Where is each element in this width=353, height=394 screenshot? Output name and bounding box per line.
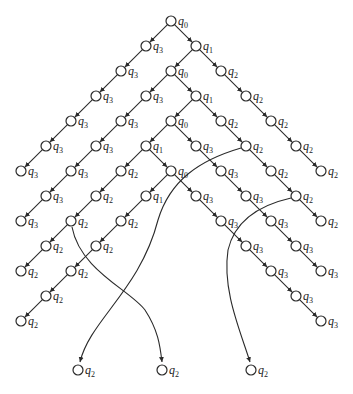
node-circle-icon bbox=[266, 166, 276, 176]
state-node: q3 bbox=[16, 214, 38, 230]
node-circle-icon bbox=[166, 116, 176, 126]
node-circle-icon bbox=[246, 365, 256, 375]
state-node: q2 bbox=[246, 363, 268, 379]
curved-edge-e5-z1 bbox=[80, 148, 241, 362]
state-label: q3 bbox=[103, 89, 113, 105]
node-circle-icon bbox=[66, 216, 76, 226]
state-label: q3 bbox=[78, 164, 88, 180]
state-node: q3 bbox=[316, 314, 338, 330]
node-circle-icon bbox=[191, 91, 201, 101]
state-label: q0 bbox=[178, 164, 188, 180]
node-circle-icon bbox=[191, 191, 201, 201]
state-label: q2 bbox=[78, 214, 88, 230]
state-label: q3 bbox=[128, 64, 138, 80]
state-label: q3 bbox=[278, 214, 288, 230]
state-label: q2 bbox=[169, 363, 179, 379]
node-circle-icon bbox=[166, 16, 176, 26]
node-circle-icon bbox=[216, 216, 226, 226]
state-label: q3 bbox=[153, 39, 163, 55]
node-circle-icon bbox=[91, 191, 101, 201]
node-circle-icon bbox=[266, 266, 276, 276]
state-node: q2 bbox=[41, 289, 63, 305]
state-node: q2 bbox=[66, 264, 88, 280]
state-label: q0 bbox=[178, 64, 188, 80]
state-node: q1 bbox=[141, 189, 163, 205]
node-circle-icon bbox=[91, 91, 101, 101]
state-label: q3 bbox=[53, 189, 63, 205]
state-node: q3 bbox=[41, 139, 63, 155]
state-label: q3 bbox=[128, 114, 138, 130]
node-circle-icon bbox=[241, 191, 251, 201]
state-label: q3 bbox=[53, 139, 63, 155]
node-circle-icon bbox=[266, 216, 276, 226]
state-label: q3 bbox=[253, 189, 263, 205]
state-label: q2 bbox=[85, 363, 95, 379]
state-label: q2 bbox=[78, 264, 88, 280]
state-label: q2 bbox=[53, 289, 63, 305]
node-circle-icon bbox=[16, 166, 26, 176]
state-node: q2 bbox=[116, 214, 138, 230]
state-label: q3 bbox=[153, 89, 163, 105]
state-node: q2 bbox=[91, 189, 113, 205]
state-label: q3 bbox=[28, 214, 38, 230]
node-circle-icon bbox=[41, 191, 51, 201]
state-node: q3 bbox=[141, 89, 163, 105]
node-circle-icon bbox=[191, 141, 201, 151]
state-label: q2 bbox=[128, 214, 138, 230]
state-label: q3 bbox=[328, 264, 338, 280]
state-label: q2 bbox=[53, 239, 63, 255]
state-node: q2 bbox=[16, 264, 38, 280]
node-circle-icon bbox=[66, 166, 76, 176]
state-node: q3 bbox=[66, 164, 88, 180]
node-circle-icon bbox=[141, 191, 151, 201]
node-circle-icon bbox=[116, 66, 126, 76]
state-node: q3 bbox=[91, 89, 113, 105]
node-circle-icon bbox=[166, 66, 176, 76]
node-circle-icon bbox=[141, 141, 151, 151]
state-node: q3 bbox=[66, 114, 88, 130]
node-circle-icon bbox=[241, 241, 251, 251]
state-node: q2 bbox=[316, 164, 338, 180]
node-circle-icon bbox=[316, 216, 326, 226]
node-circle-icon bbox=[157, 365, 167, 375]
state-label: q3 bbox=[103, 139, 113, 155]
state-label: q2 bbox=[28, 264, 38, 280]
node-circle-icon bbox=[291, 291, 301, 301]
node-circle-icon bbox=[41, 241, 51, 251]
state-label: q3 bbox=[303, 289, 313, 305]
state-label: q3 bbox=[328, 314, 338, 330]
state-label: q3 bbox=[228, 214, 238, 230]
state-label: q2 bbox=[228, 64, 238, 80]
state-node: q2 bbox=[41, 239, 63, 255]
node-circle-icon bbox=[166, 166, 176, 176]
node-circle-icon bbox=[116, 166, 126, 176]
state-label: q2 bbox=[278, 114, 288, 130]
state-node: q3 bbox=[116, 64, 138, 80]
state-label: q3 bbox=[28, 164, 38, 180]
node-circle-icon bbox=[241, 91, 251, 101]
node-circle-icon bbox=[141, 41, 151, 51]
state-label: q2 bbox=[303, 189, 313, 205]
state-node: q2 bbox=[116, 164, 138, 180]
node-circle-icon bbox=[216, 66, 226, 76]
node-circle-icon bbox=[316, 166, 326, 176]
state-label: q0 bbox=[178, 114, 188, 130]
state-label: q2 bbox=[228, 114, 238, 130]
node-circle-icon bbox=[216, 166, 226, 176]
state-label: q1 bbox=[153, 189, 163, 205]
state-label: q2 bbox=[278, 164, 288, 180]
node-circle-icon bbox=[16, 266, 26, 276]
state-label: q3 bbox=[203, 189, 213, 205]
node-circle-icon bbox=[316, 266, 326, 276]
state-label: q3 bbox=[228, 164, 238, 180]
state-label: q2 bbox=[128, 164, 138, 180]
node-circle-icon bbox=[291, 241, 301, 251]
nodes: q0q3q3q3q3q3q3q1q0q3q3q3q3q3q3q2q2q2q2q2… bbox=[16, 14, 338, 379]
state-node: q3 bbox=[91, 139, 113, 155]
node-circle-icon bbox=[66, 266, 76, 276]
state-label: q2 bbox=[253, 139, 263, 155]
state-node: q2 bbox=[157, 363, 179, 379]
node-circle-icon bbox=[41, 291, 51, 301]
state-node: q3 bbox=[16, 164, 38, 180]
node-circle-icon bbox=[291, 141, 301, 151]
